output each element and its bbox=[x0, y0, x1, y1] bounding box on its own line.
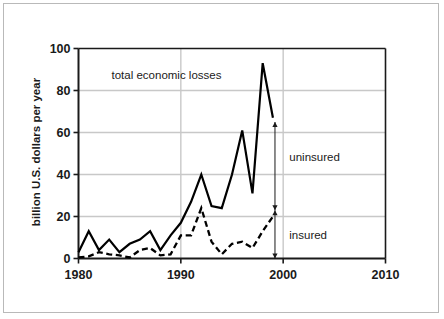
y-tick-label: 100 bbox=[50, 42, 71, 56]
y-axis-tick-labels: 020406080100 bbox=[50, 42, 71, 266]
y-tick-label: 60 bbox=[57, 126, 71, 140]
y-tick-label: 40 bbox=[57, 168, 71, 182]
data-series-group bbox=[79, 63, 273, 257]
x-tick-label: 1990 bbox=[167, 268, 195, 282]
annotation-uninsured: uninsured bbox=[289, 151, 340, 163]
series-line-total-economic-losses bbox=[79, 63, 273, 252]
x-axis-tick-labels: 1980199020002010 bbox=[65, 268, 400, 282]
annotation-total-economic-losses: total economic losses bbox=[112, 69, 222, 81]
x-tick-label: 2000 bbox=[269, 268, 297, 282]
x-tick-label: 2010 bbox=[372, 268, 400, 282]
x-tick-label: 1980 bbox=[65, 268, 93, 282]
figure-container: 1980199020002010 020406080100 total econ… bbox=[0, 0, 444, 319]
y-axis-title: billion U.S. dollars per year bbox=[30, 77, 42, 226]
insured-span-arrow bbox=[272, 210, 277, 258]
annotation-insured: insured bbox=[289, 229, 327, 241]
annotation-arrows-group bbox=[272, 122, 277, 259]
y-tick-label: 20 bbox=[57, 210, 71, 224]
line-chart: 1980199020002010 020406080100 total econ… bbox=[0, 0, 444, 319]
y-tick-label: 0 bbox=[64, 252, 71, 266]
y-tick-label: 80 bbox=[57, 84, 71, 98]
annotation-labels-group: total economic lossesuninsuredinsured bbox=[112, 69, 340, 241]
uninsured-span-arrow bbox=[272, 122, 277, 210]
series-line-insured-losses bbox=[79, 208, 273, 257]
